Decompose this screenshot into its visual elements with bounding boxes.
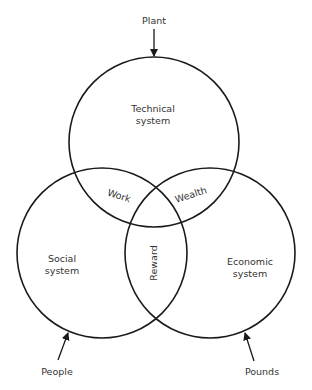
technical-system-circle	[69, 57, 239, 227]
people-label: People	[41, 366, 73, 377]
economic-label-line1: Economic	[227, 256, 273, 267]
economic-label-line2: system	[233, 268, 267, 279]
wealth-label: Wealth	[174, 184, 209, 205]
technical-label-line1: Technical	[130, 103, 175, 114]
social-system-circle	[17, 168, 187, 338]
venn-diagram: Plant People Pounds Technical system Soc…	[0, 0, 312, 390]
plant-label: Plant	[142, 15, 166, 26]
work-label: Work	[106, 187, 133, 205]
technical-label-line2: system	[136, 115, 170, 126]
people-arrow-icon	[58, 333, 68, 360]
pounds-arrow-icon	[245, 333, 254, 361]
social-label-line1: Social	[48, 253, 76, 264]
social-label-line2: system	[45, 265, 79, 276]
pounds-label: Pounds	[245, 366, 279, 377]
reward-label: Reward	[148, 245, 159, 280]
